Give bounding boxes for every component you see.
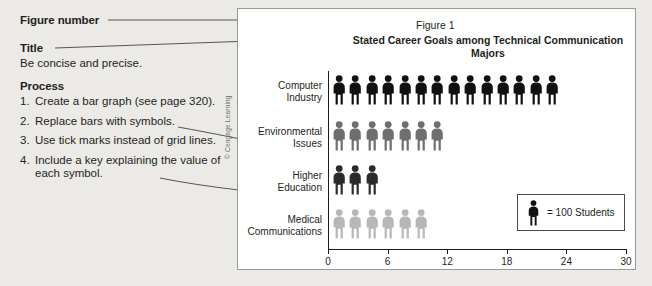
x-axis-tick-label: 0 (316, 256, 340, 267)
step-text: Create a bar graph (see page 320). (35, 95, 225, 109)
step-number: 1. (20, 95, 35, 109)
process-step-list: 1. Create a bar graph (see page 320). 2.… (20, 95, 225, 187)
annotation-title: Title (20, 42, 43, 54)
category-label: Medical Communications (246, 214, 322, 237)
x-axis-tick (388, 249, 389, 254)
chart-title: Stated Career Goals among Technical Comm… (348, 34, 628, 59)
person-icon (413, 75, 429, 105)
pictogram-row (331, 209, 429, 239)
x-axis (328, 249, 626, 250)
pictogram-row (331, 121, 446, 151)
person-icon (544, 75, 560, 105)
annotation-figure-number: Figure number (20, 14, 99, 26)
step-number: 2. (20, 115, 35, 129)
step-text: Include a key explaining the value of ea… (35, 154, 225, 181)
person-icon (479, 75, 495, 105)
person-icon (364, 121, 380, 151)
x-axis-tick-label: 24 (554, 256, 578, 267)
step-text: Replace bars with symbols. (35, 115, 225, 129)
person-icon (364, 165, 380, 195)
list-item: 2. Replace bars with symbols. (20, 115, 225, 129)
person-icon (380, 121, 396, 151)
person-icon (413, 209, 429, 239)
list-item: 4. Include a key explaining the value of… (20, 154, 225, 181)
person-icon (495, 75, 511, 105)
legend-key: = 100 Students (517, 194, 625, 231)
person-icon (347, 75, 363, 105)
x-axis-tick-label: 18 (495, 256, 519, 267)
person-icon (462, 75, 478, 105)
x-axis-tick-label: 30 (614, 256, 638, 267)
list-item: 3. Use tick marks instead of grid lines. (20, 134, 225, 148)
legend-text: = 100 Students (547, 207, 615, 218)
person-icon (347, 165, 363, 195)
category-label: Environmental Issues (246, 126, 322, 149)
person-icon (511, 75, 527, 105)
person-icon (397, 209, 413, 239)
person-icon (331, 209, 347, 239)
copyright-credit: © Cengage Learning (224, 69, 231, 159)
category-label: Computer Industry (246, 80, 322, 103)
x-axis-tick-label: 6 (376, 256, 400, 267)
person-icon (397, 75, 413, 105)
list-item: 1. Create a bar graph (see page 320). (20, 95, 225, 109)
x-axis-tick (447, 249, 448, 254)
y-axis (328, 71, 329, 249)
x-axis-tick (626, 249, 627, 254)
pictogram-row (331, 75, 560, 105)
person-icon (347, 209, 363, 239)
person-icon (364, 209, 380, 239)
annotation-title-hint: Be concise and precise. (20, 57, 142, 69)
figure-panel: © Cengage Learning Figure 1 Stated Caree… (237, 8, 636, 270)
person-icon (380, 75, 396, 105)
category-label: Higher Education (246, 170, 322, 193)
person-icon (331, 75, 347, 105)
person-icon (525, 200, 542, 226)
person-icon (364, 75, 380, 105)
x-axis-tick-label: 12 (435, 256, 459, 267)
pictogram-row (331, 165, 380, 195)
person-icon (413, 121, 429, 151)
x-axis-tick (328, 249, 329, 254)
person-icon (331, 121, 347, 151)
person-icon (528, 75, 544, 105)
person-icon (429, 75, 445, 105)
person-icon (331, 165, 347, 195)
step-number: 4. (20, 154, 35, 181)
person-icon (429, 121, 445, 151)
person-icon (397, 121, 413, 151)
person-icon (380, 209, 396, 239)
annotation-process: Process (20, 80, 64, 92)
x-axis-tick (507, 249, 508, 254)
figure-number-label: Figure 1 (416, 19, 455, 31)
step-number: 3. (20, 134, 35, 148)
person-icon (446, 75, 462, 105)
person-icon (347, 121, 363, 151)
step-text: Use tick marks instead of grid lines. (35, 134, 225, 148)
x-axis-tick (566, 249, 567, 254)
